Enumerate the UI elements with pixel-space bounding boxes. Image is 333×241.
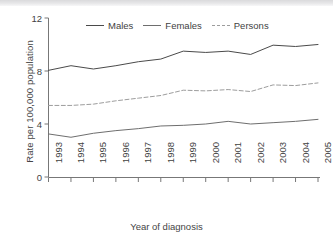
x-tick-label: 2005: [322, 142, 333, 182]
x-tick-labels: 1993199419951996199719981999200020012002…: [0, 0, 333, 241]
x-tick-label: 1996: [120, 142, 131, 182]
y-axis-title: Rate per 100,000 population: [24, 17, 35, 187]
x-axis-title: Year of diagnosis: [0, 221, 333, 232]
legend-entry-persons[interactable]: Persons: [212, 20, 269, 31]
legend-swatch-solid-line-icon: [143, 25, 161, 26]
legend-entry-females[interactable]: Females: [143, 20, 201, 31]
legend-label: Persons: [234, 20, 269, 31]
legend-label: Females: [165, 20, 201, 31]
x-tick-label: 2002: [255, 142, 266, 182]
x-tick-label: 1999: [187, 142, 198, 182]
x-tick-label: 1998: [165, 142, 176, 182]
legend-swatch-solid-line-icon: [86, 25, 104, 26]
x-tick-label: 1995: [97, 142, 108, 182]
x-tick-label: 1993: [53, 142, 64, 182]
legend-label: Males: [108, 20, 133, 31]
chart-legend: MalesFemalesPersons: [86, 20, 269, 31]
x-tick-label: 2000: [210, 142, 221, 182]
legend-entry-males[interactable]: Males: [86, 20, 133, 31]
x-tick-label: 1997: [142, 142, 153, 182]
x-tick-label: 2001: [232, 142, 243, 182]
legend-swatch-dashed-line-icon: [212, 25, 230, 26]
x-tick-label: 1994: [75, 142, 86, 182]
x-tick-label: 2004: [300, 142, 311, 182]
chart-figure: 04812 1993199419951996199719981999200020…: [0, 0, 333, 241]
x-tick-label: 2003: [277, 142, 288, 182]
